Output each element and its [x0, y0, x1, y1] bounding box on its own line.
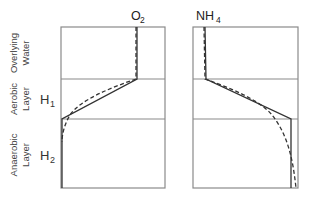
svg-text:Aerobic: Aerobic	[8, 83, 19, 115]
svg-text:Layer: Layer	[20, 143, 31, 167]
svg-text:2: 2	[50, 155, 55, 165]
nh4-panel	[193, 27, 298, 188]
o2-solid-profile	[62, 27, 137, 188]
svg-text:Water: Water	[20, 41, 31, 66]
concentration-profile-diagram: Overlying Water Aerobic Layer Anaerobic …	[0, 0, 310, 198]
layer-label-anaerobic: Anaerobic Layer	[8, 133, 31, 176]
o2-profile-curves	[62, 27, 137, 188]
nh4-dashed-profile	[204, 27, 296, 188]
nh4-profile-curves	[204, 27, 296, 188]
svg-text:Layer: Layer	[20, 87, 31, 111]
panel-title-o2: O 2	[131, 9, 145, 25]
thickness-label-h1: H 1	[40, 92, 55, 109]
svg-text:4: 4	[216, 15, 221, 25]
nh4-solid-profile	[205, 27, 291, 188]
layer-label-aerobic: Aerobic Layer	[8, 83, 31, 115]
panel-title-nh4: NH 4	[196, 9, 221, 25]
layer-label-overlying-water: Overlying Water	[8, 33, 31, 73]
svg-text:2: 2	[140, 15, 145, 25]
thickness-label-h2: H 2	[40, 148, 55, 165]
svg-text:Anaerobic: Anaerobic	[8, 133, 19, 176]
svg-text:1: 1	[50, 99, 55, 109]
o2-dashed-profile	[62, 27, 136, 142]
svg-text:NH: NH	[196, 9, 214, 23]
svg-text:H: H	[40, 148, 49, 163]
svg-text:H: H	[40, 92, 49, 107]
svg-text:Overlying: Overlying	[8, 33, 19, 73]
